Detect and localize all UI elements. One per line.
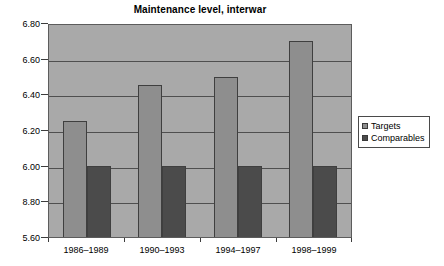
legend-label: Targets bbox=[371, 120, 401, 132]
y-axis-tick: 6.00 bbox=[0, 161, 48, 173]
x-axis-tickmark bbox=[200, 238, 201, 242]
x-axis-tick-label: 1986–1989 bbox=[48, 245, 124, 255]
bar-group bbox=[200, 25, 276, 237]
y-axis-tick-label: 6.00 bbox=[22, 161, 40, 173]
legend-label: Comparables bbox=[371, 132, 425, 144]
chart-legend: TargetsComparables bbox=[358, 116, 430, 148]
x-axis-category: 1998–1999 bbox=[276, 238, 352, 264]
y-axis-tick: 6.80 bbox=[0, 18, 48, 30]
x-axis-category: 1986–1989 bbox=[48, 238, 124, 264]
y-axis-tick-label: 8.80 bbox=[22, 196, 40, 208]
bar-targets[interactable] bbox=[138, 85, 162, 237]
y-axis-tickmark bbox=[41, 166, 48, 167]
bar-group bbox=[125, 25, 201, 237]
y-axis-tickmark bbox=[41, 23, 48, 24]
bar-comparables[interactable] bbox=[87, 166, 111, 237]
bar-comparables[interactable] bbox=[313, 166, 337, 237]
bar-comparables[interactable] bbox=[238, 166, 262, 237]
bar-group bbox=[49, 25, 125, 237]
legend-item-targets[interactable]: Targets bbox=[362, 120, 425, 132]
x-axis-category: 1994–1997 bbox=[200, 238, 276, 264]
x-axis-tickmark bbox=[124, 238, 125, 242]
y-axis-tickmark bbox=[41, 237, 48, 238]
y-axis-tick-label: 6.20 bbox=[22, 125, 40, 137]
y-axis-tick: 6.20 bbox=[0, 125, 48, 137]
chart-title: Maintenance level, interwar bbox=[48, 4, 352, 15]
y-axis-tickmark bbox=[41, 130, 48, 131]
y-axis-tick: 6.40 bbox=[0, 89, 48, 101]
x-axis-tickmark bbox=[276, 238, 277, 242]
y-axis: 6.806.606.406.206.008.805.60 bbox=[0, 24, 48, 238]
y-axis-tick: 5.60 bbox=[0, 232, 48, 244]
bar-comparables[interactable] bbox=[162, 166, 186, 237]
y-axis-tick-label: 6.40 bbox=[22, 89, 40, 101]
legend-swatch-comparables bbox=[362, 135, 368, 141]
bar-group bbox=[276, 25, 352, 237]
x-axis-tick-label: 1998–1999 bbox=[276, 245, 352, 255]
x-axis-tick-label: 1994–1997 bbox=[200, 245, 276, 255]
bars-layer bbox=[49, 25, 351, 237]
y-axis-tickmark bbox=[41, 201, 48, 202]
x-axis-tick-label: 1990–1993 bbox=[124, 245, 200, 255]
x-axis-tickmark bbox=[351, 238, 352, 242]
y-axis-tick-label: 5.60 bbox=[22, 232, 40, 244]
bar-targets[interactable] bbox=[63, 121, 87, 237]
y-axis-tick: 6.60 bbox=[0, 54, 48, 66]
bar-targets[interactable] bbox=[289, 41, 313, 237]
plot-area bbox=[48, 24, 352, 238]
legend-swatch-targets bbox=[362, 123, 368, 129]
y-axis-tick: 8.80 bbox=[0, 196, 48, 208]
y-axis-tickmark bbox=[41, 94, 48, 95]
y-axis-tick-label: 6.60 bbox=[22, 54, 40, 66]
legend-item-comparables[interactable]: Comparables bbox=[362, 132, 425, 144]
bar-targets[interactable] bbox=[214, 77, 238, 238]
y-axis-tickmark bbox=[41, 59, 48, 60]
bar-chart: Maintenance level, interwar 6.806.606.40… bbox=[0, 0, 444, 266]
x-axis-category: 1990–1993 bbox=[124, 238, 200, 264]
x-axis-tickmark bbox=[48, 238, 49, 242]
x-axis: 1986–19891990–19931994–19971998–1999 bbox=[48, 238, 352, 264]
y-axis-tick-label: 6.80 bbox=[22, 18, 40, 30]
